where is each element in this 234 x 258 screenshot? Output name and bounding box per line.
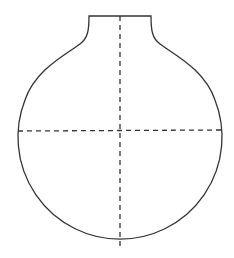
diagram-canvas (0, 0, 234, 258)
horizontal-centerline (18, 130, 221, 131)
flask-diagram (0, 0, 234, 258)
